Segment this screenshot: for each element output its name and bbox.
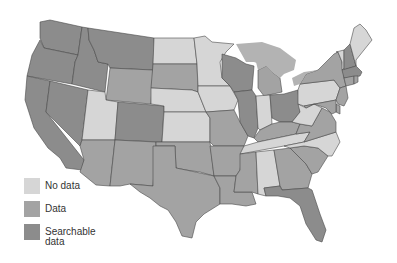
legend-item-no-data: No data (24, 178, 95, 194)
state-WY[interactable] (106, 68, 153, 104)
state-ND[interactable] (153, 38, 197, 64)
legend-label: Data (45, 201, 95, 214)
legend-item-data: Data (24, 201, 95, 217)
state-SD[interactable] (151, 64, 198, 92)
state-KS[interactable] (162, 112, 210, 142)
legend-item-searchable-data: Searchable data (24, 224, 95, 247)
legend-swatch-data (24, 201, 40, 217)
state-DE[interactable] (336, 104, 340, 114)
map-legend: No data Data Searchable data (24, 178, 95, 254)
state-NM[interactable] (110, 140, 156, 186)
legend-swatch-searchable-data (24, 224, 40, 240)
state-FL[interactable] (264, 186, 326, 242)
state-RI[interactable] (354, 76, 358, 84)
state-IN[interactable] (256, 95, 272, 130)
legend-label: Searchable data (45, 224, 95, 247)
state-CT[interactable] (344, 76, 354, 86)
legend-label: No data (45, 178, 95, 191)
legend-swatch-no-data (24, 178, 40, 194)
state-CO[interactable] (115, 102, 164, 142)
